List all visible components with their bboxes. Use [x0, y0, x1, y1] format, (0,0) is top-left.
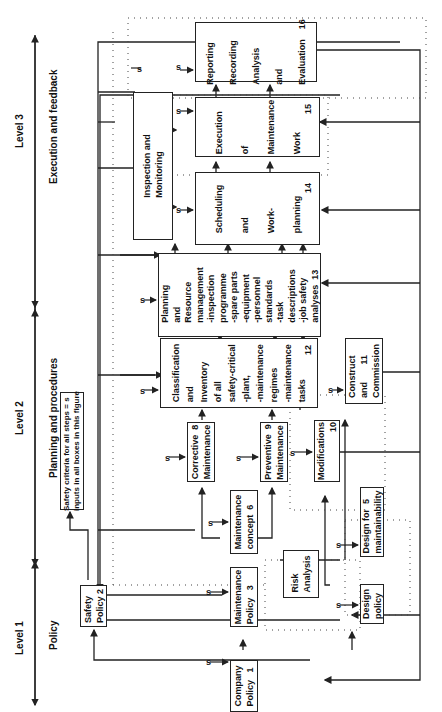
s-input-arrows [0, 0, 442, 712]
